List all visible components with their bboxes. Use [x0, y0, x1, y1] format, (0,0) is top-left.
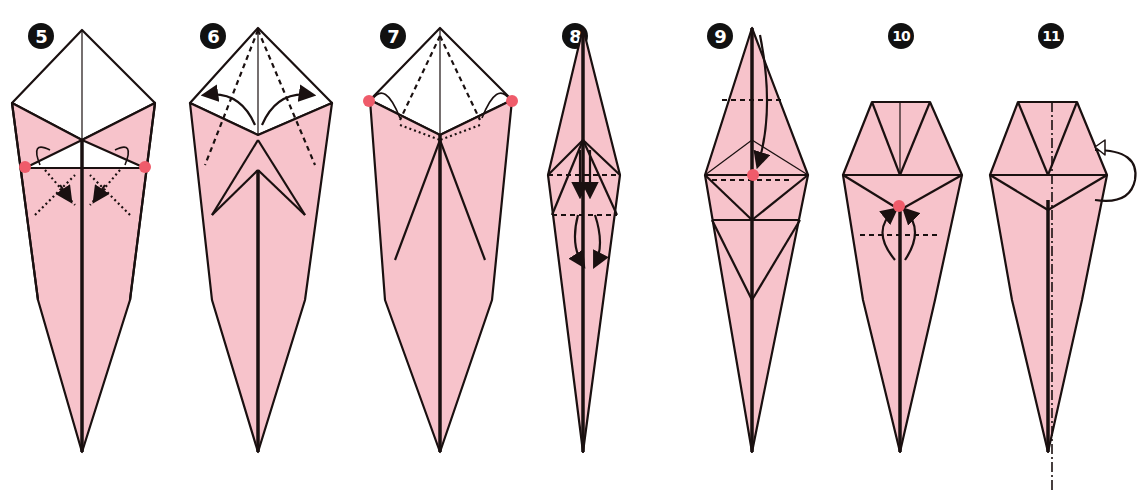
step-5-drawing: [12, 30, 155, 452]
step-11-drawing: [990, 102, 1136, 493]
fold-drawings: [0, 0, 1147, 493]
step-10-drawing: [843, 102, 962, 452]
step-8-drawing: [548, 28, 620, 452]
step-7-drawing: [363, 28, 518, 452]
step-9-drawing: [705, 28, 808, 452]
origami-diagram: 5 6 7 8 9 10 11: [0, 0, 1147, 493]
step-6-drawing: [190, 28, 332, 452]
